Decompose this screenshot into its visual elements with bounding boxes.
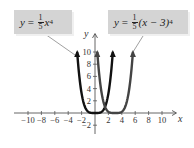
arrowhead-icon <box>130 50 136 57</box>
left-leader-line <box>45 34 75 55</box>
eq-equals: = <box>28 16 34 28</box>
eq-expression: (x − 3) <box>139 16 170 28</box>
exponent: 4 <box>169 18 173 26</box>
y-tick-label: 4 <box>87 84 92 94</box>
denominator: 5 <box>39 23 43 31</box>
eq-equals: = <box>122 16 128 28</box>
y-tick-label: 2 <box>87 96 91 106</box>
x-tick-label: 10 <box>158 115 167 125</box>
x-tick-label: 8 <box>146 115 150 125</box>
y-tick-label: 8 <box>87 59 91 69</box>
eq-y: y <box>114 16 119 28</box>
right-leader-line <box>133 36 143 52</box>
arrowhead-icon <box>74 50 80 57</box>
x-tick-label: 6 <box>133 115 137 125</box>
x-axis-label: x <box>177 113 183 124</box>
x-tick-label: −4 <box>64 115 74 125</box>
x-tick-label: −10 <box>21 115 34 125</box>
fraction: 15 <box>132 14 138 31</box>
x-tick-label: 2 <box>106 115 110 125</box>
y-axis-label: y <box>83 28 89 39</box>
arrowhead-icon <box>110 50 116 57</box>
denominator: 5 <box>133 23 137 31</box>
eq-y: y <box>20 16 25 28</box>
y-tick-label: 10 <box>83 47 92 57</box>
fraction: 15 <box>38 14 44 31</box>
x-tick-label: 4 <box>120 115 125 125</box>
y-axis <box>93 34 98 135</box>
x-tick-label: −6 <box>50 115 59 125</box>
y-tick-label: −2 <box>82 120 91 130</box>
curve-shifted-x4 <box>97 52 133 113</box>
left-equation-label: y = 15x4 <box>14 10 72 34</box>
x-tick-label: −8 <box>37 115 46 125</box>
exponent: 4 <box>50 18 54 26</box>
y-tick-label: 6 <box>87 71 91 81</box>
right-equation-label: y = 15(x − 3)4 <box>108 10 188 34</box>
